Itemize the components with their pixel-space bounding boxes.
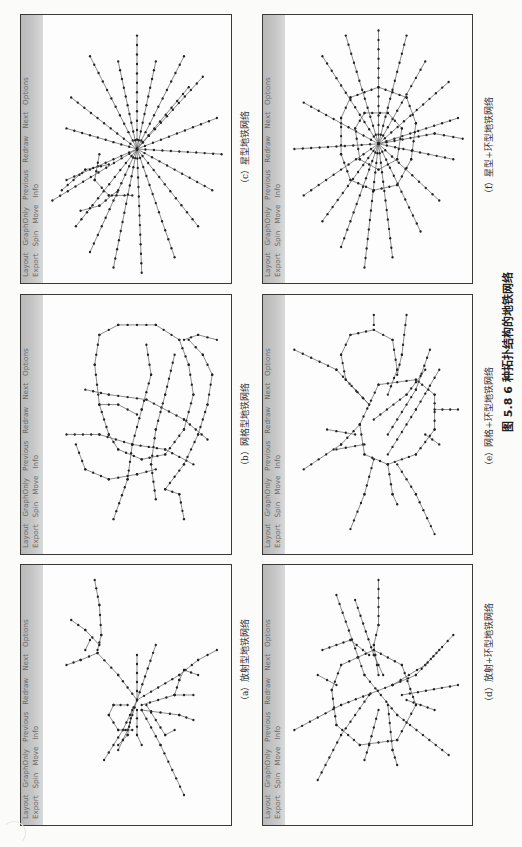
panel-b: LayoutGraphOnlyPreviousRedrawNextOptions… [20,294,232,555]
menu-rot: LayoutGraphOnlyPreviousRedrawNextOptions… [21,348,41,552]
caption-e: （e）网格+环型地铁网络 [482,367,495,470]
menu-item-redraw[interactable]: Redraw [263,678,273,705]
figure-title: 图 5.8 6 种拓扑结构的地铁网络 [499,272,515,432]
menu-item-move[interactable]: Move [273,747,283,766]
menu-item-redraw[interactable]: Redraw [263,407,273,434]
menu-item-info[interactable]: Info [273,726,283,740]
menu-item-export[interactable]: Export [273,253,283,277]
menu-item-spin[interactable]: Spin [273,502,283,518]
menu-item-options[interactable]: Options [21,619,31,647]
menu-item-move[interactable]: Move [273,476,283,495]
menu-item-previous[interactable]: Previous [21,441,31,471]
menu-item-previous[interactable]: Previous [263,712,273,742]
menu-item-export[interactable]: Export [31,253,41,277]
menu-item-move[interactable]: Move [31,476,41,495]
menu-item-export[interactable]: Export [273,524,283,548]
menu-item-layout[interactable]: Layout [263,524,273,548]
menu-item-graphonly[interactable]: GraphOnly [21,207,31,246]
menu-rot: LayoutGraphOnlyPreviousRedrawNextOptions… [21,77,41,281]
panel-a: LayoutGraphOnlyPreviousRedrawNextOptions… [20,564,232,826]
caption-d: （d）放射+环型地铁网络 [482,603,495,706]
menu-row-1: LayoutGraphOnlyPreviousRedrawNextOptions [21,77,31,281]
menu-bar: LayoutGraphOnlyPreviousRedrawNextOptions… [21,565,43,825]
menu-item-graphonly[interactable]: GraphOnly [263,207,273,246]
menu-rot: LayoutGraphOnlyPreviousRedrawNextOptions… [263,348,283,552]
menu-item-graphonly[interactable]: GraphOnly [21,478,31,517]
menu-item-spin[interactable]: Spin [31,773,41,789]
menu-item-next[interactable]: Next [21,654,31,671]
menu-item-redraw[interactable]: Redraw [21,678,31,705]
menu-item-options[interactable]: Options [21,77,31,105]
menu-item-redraw[interactable]: Redraw [21,136,31,163]
menu-row-2: ExportSpinMoveInfo [31,619,41,823]
menu-item-layout[interactable]: Layout [263,253,273,277]
menu-item-previous[interactable]: Previous [21,170,31,200]
menu-item-move[interactable]: Move [273,205,283,224]
menu-item-layout[interactable]: Layout [21,253,31,277]
menu-bar: LayoutGraphOnlyPreviousRedrawNextOptions… [263,295,285,554]
panel-d: LayoutGraphOnlyPreviousRedrawNextOptions… [262,564,473,826]
menu-item-info[interactable]: Info [273,184,283,198]
menu-row-2: ExportSpinMoveInfo [31,77,41,281]
menu-rot: LayoutGraphOnlyPreviousRedrawNextOptions… [263,77,283,281]
menu-bar: LayoutGraphOnlyPreviousRedrawNextOptions… [21,15,43,283]
network-graph [285,15,472,283]
network-graph [285,565,472,825]
caption-f: （f）星型+环型地铁网络 [482,97,495,198]
menu-row-2: ExportSpinMoveInfo [31,348,41,552]
menu-row-2: ExportSpinMoveInfo [273,619,283,823]
caption-a: （a）放射型地铁网络 [238,619,251,705]
menu-item-options[interactable]: Options [263,77,273,105]
network-graph [43,15,231,283]
menu-row-1: LayoutGraphOnlyPreviousRedrawNextOptions [21,348,31,552]
menu-item-previous[interactable]: Previous [263,170,273,200]
menu-bar: LayoutGraphOnlyPreviousRedrawNextOptions… [21,295,43,554]
network-graph [43,295,231,554]
menu-item-spin[interactable]: Spin [273,231,283,247]
menu-item-move[interactable]: Move [31,747,41,766]
menu-row-1: LayoutGraphOnlyPreviousRedrawNextOptions [263,348,273,552]
menu-item-redraw[interactable]: Redraw [263,136,273,163]
menu-row-1: LayoutGraphOnlyPreviousRedrawNextOptions [263,77,273,281]
network-graph [285,295,472,554]
menu-item-export[interactable]: Export [31,524,41,548]
menu-item-next[interactable]: Next [21,112,31,129]
caption-c: （c）星型地铁网络 [238,111,251,188]
menu-bar: LayoutGraphOnlyPreviousRedrawNextOptions… [263,565,285,825]
menu-item-layout[interactable]: Layout [21,524,31,548]
menu-item-redraw[interactable]: Redraw [21,407,31,434]
menu-item-export[interactable]: Export [273,795,283,819]
menu-item-export[interactable]: Export [31,795,41,819]
menu-item-next[interactable]: Next [263,112,273,129]
menu-rot: LayoutGraphOnlyPreviousRedrawNextOptions… [21,619,41,823]
menu-item-previous[interactable]: Previous [263,441,273,471]
menu-item-spin[interactable]: Spin [31,231,41,247]
subway-network-c [43,15,231,283]
panel-f: LayoutGraphOnlyPreviousRedrawNextOptions… [262,14,473,284]
subway-network-e [285,295,472,554]
menu-item-info[interactable]: Info [31,726,41,740]
menu-item-layout[interactable]: Layout [263,795,273,819]
menu-item-previous[interactable]: Previous [21,712,31,742]
menu-item-graphonly[interactable]: GraphOnly [21,749,31,788]
subway-network-f [285,15,472,283]
menu-item-next[interactable]: Next [263,654,273,671]
menu-item-next[interactable]: Next [263,383,273,400]
menu-row-1: LayoutGraphOnlyPreviousRedrawNextOptions [263,619,273,823]
menu-item-move[interactable]: Move [31,205,41,224]
menu-rot: LayoutGraphOnlyPreviousRedrawNextOptions… [263,619,283,823]
menu-item-layout[interactable]: Layout [21,795,31,819]
menu-item-spin[interactable]: Spin [31,502,41,518]
menu-item-spin[interactable]: Spin [273,773,283,789]
menu-item-options[interactable]: Options [263,348,273,376]
menu-row-1: LayoutGraphOnlyPreviousRedrawNextOptions [21,619,31,823]
menu-row-2: ExportSpinMoveInfo [273,77,283,281]
menu-item-info[interactable]: Info [31,455,41,469]
menu-item-info[interactable]: Info [31,184,41,198]
menu-item-options[interactable]: Options [21,348,31,376]
menu-item-graphonly[interactable]: GraphOnly [263,749,273,788]
menu-item-graphonly[interactable]: GraphOnly [263,478,273,517]
menu-item-next[interactable]: Next [21,383,31,400]
menu-item-info[interactable]: Info [273,455,283,469]
menu-item-options[interactable]: Options [263,619,273,647]
